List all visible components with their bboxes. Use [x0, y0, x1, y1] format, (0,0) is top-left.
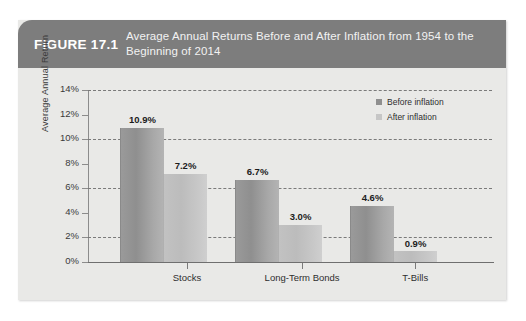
figure-number-label: FIGURE 17.1	[18, 37, 122, 52]
bar-value-label: 6.7%	[247, 166, 269, 177]
legend-swatch-icon	[376, 114, 382, 120]
x-axis-category-label: Long-Term Bonds	[265, 272, 340, 283]
bar: 0.9%	[393, 251, 437, 262]
figure-header: FIGURE 17.1 Average Annual Returns Befor…	[18, 20, 506, 68]
y-axis-tick-label: 8%	[65, 157, 79, 168]
y-axis-tick-label: 0%	[65, 255, 79, 266]
y-axis-tick-label: 6%	[65, 181, 79, 192]
chart-area: Average Annual Return 14%12%10%8%6%4%2%0…	[18, 68, 506, 300]
x-axis-tick-mark	[302, 263, 303, 269]
legend-label: After inflation	[387, 112, 437, 122]
figure-title: Average Annual Returns Before and After …	[122, 29, 506, 59]
bar-value-label: 10.9%	[129, 114, 156, 125]
y-axis-tick-mark	[82, 262, 88, 263]
bar-value-label: 3.0%	[290, 211, 312, 222]
legend-swatch-icon	[376, 99, 382, 105]
bar: 7.2%	[163, 174, 207, 262]
y-axis-tick-label: 4%	[65, 206, 79, 217]
bar: 6.7%	[235, 180, 279, 262]
legend-item-after-inflation: After inflation	[376, 110, 444, 123]
x-axis-tick-mark	[415, 263, 416, 269]
x-axis-category-label: T-Bills	[402, 272, 428, 283]
bar-value-label: 7.2%	[175, 160, 197, 171]
bar-value-label: 4.6%	[362, 192, 384, 203]
legend-item-before-inflation: Before inflation	[376, 95, 444, 108]
x-axis-tick-mark	[187, 263, 188, 269]
y-axis-tick-label: 12%	[60, 108, 79, 119]
y-axis-tick-label: 2%	[65, 230, 79, 241]
y-axis-tick-label: 14%	[60, 83, 79, 94]
x-axis-category-label: Stocks	[173, 272, 202, 283]
bar: 10.9%	[120, 128, 164, 262]
y-axis-title: Average Annual Return	[40, 35, 50, 132]
x-axis-line	[88, 262, 494, 263]
chart-legend: Before inflation After inflation	[376, 95, 444, 125]
y-axis-tick-label: 10%	[60, 132, 79, 143]
legend-label: Before inflation	[387, 97, 444, 107]
figure-root: FIGURE 17.1 Average Annual Returns Befor…	[0, 0, 526, 321]
bar: 4.6%	[350, 206, 394, 263]
bar-value-label: 0.9%	[405, 238, 427, 249]
bar: 3.0%	[278, 225, 322, 262]
